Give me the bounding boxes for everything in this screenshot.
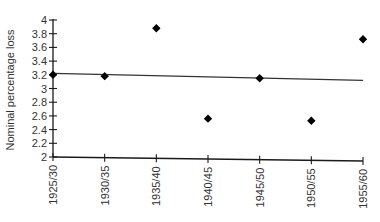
y-tick-label: 3.8 — [32, 28, 47, 40]
data-point-diamond — [359, 35, 367, 43]
x-tick-label: 1940/45 — [202, 167, 214, 207]
trend-line — [53, 73, 363, 80]
y-axis-title: Nominal percentage loss — [4, 29, 16, 151]
y-tick-label: 3.6 — [32, 41, 47, 53]
data-point-diamond — [100, 72, 108, 80]
data-point-diamond — [255, 74, 263, 82]
data-point-diamond — [204, 114, 212, 122]
x-axis: 1925/301930/351935/401940/451945/501950/… — [47, 153, 369, 209]
data-point-diamond — [307, 116, 315, 124]
y-tick-label: 2.2 — [32, 137, 47, 149]
y-tick-label: 3.4 — [32, 55, 47, 67]
x-tick-label: 1955/60 — [357, 169, 369, 209]
y-tick-label: 2 — [41, 151, 47, 163]
x-tick-label: 1945/50 — [254, 168, 266, 208]
data-point-diamond — [152, 24, 160, 32]
y-tick-label: 2.6 — [32, 110, 47, 122]
data-point-diamond — [49, 71, 57, 79]
y-tick-label: 2.4 — [32, 124, 47, 136]
y-tick-label: 4 — [41, 14, 47, 26]
y-tick-label: 2.8 — [32, 96, 47, 108]
x-tick-label: 1930/35 — [99, 166, 111, 206]
x-tick-label: 1925/30 — [47, 165, 59, 205]
y-axis: 22.22.42.62.833.23.43.63.84 — [32, 14, 57, 163]
x-tick-label: 1950/55 — [305, 168, 317, 208]
y-tick-label: 3.2 — [32, 69, 47, 81]
x-tick-label: 1935/40 — [150, 166, 162, 206]
scatter-chart: 22.22.42.62.833.23.43.63.84 1925/301930/… — [0, 0, 380, 222]
y-tick-label: 3 — [41, 83, 47, 95]
